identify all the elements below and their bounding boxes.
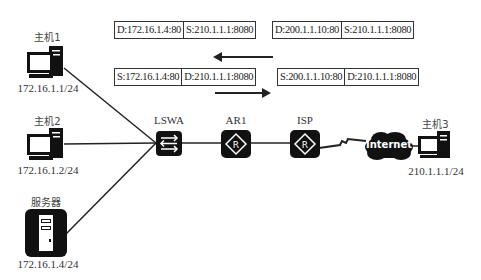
pc-icon[interactable]	[27, 128, 69, 161]
svg-text:R: R	[233, 140, 239, 150]
host3-name: 主机3	[413, 116, 458, 131]
packet-dst: D:210.1.1.1:8080	[181, 69, 255, 85]
packet-src: S:172.16.1.4:80	[115, 69, 181, 85]
router-icon[interactable]: R	[221, 130, 251, 158]
packet-dst: D:210.1.1.1:8080	[344, 69, 418, 85]
packet-dst: D:172.16.1.4:80	[115, 22, 183, 38]
internet-label: Internet	[363, 139, 415, 150]
isp-name: ISP	[285, 114, 325, 126]
server-ip: 172.16.1.4/24	[5, 258, 91, 270]
arrow-left-icon	[213, 52, 273, 62]
packet-return-outside: D:200.1.1.10:80 S:210.1.1.1:8080	[272, 21, 414, 39]
packet-request-inside: S:172.16.1.4:80 D:210.1.1.1:8080	[114, 68, 256, 86]
packet-src: S:200.1.1.10:80	[278, 69, 344, 85]
packet-src: S:210.1.1.1:8080	[341, 22, 413, 38]
host1-name: 主机1	[25, 29, 70, 44]
server-icon[interactable]	[25, 209, 67, 257]
packet-src: S:210.1.1.1:8080	[183, 22, 255, 38]
packet-return-inside: D:172.16.1.4:80 S:210.1.1.1:8080	[114, 21, 256, 39]
internet-cloud[interactable]: Internet	[363, 131, 415, 161]
host2-ip: 172.16.1.2/24	[5, 164, 91, 176]
server-name: 服务器	[22, 194, 70, 209]
host1-ip: 172.16.1.1/24	[5, 82, 91, 94]
switch-name: LSWA	[148, 114, 190, 126]
packet-request-outside: S:200.1.1.10:80 D:210.1.1.1:8080	[277, 68, 419, 86]
ar1-name: AR1	[216, 114, 256, 126]
pc-icon[interactable]	[418, 131, 454, 159]
switch-icon[interactable]	[156, 131, 182, 156]
packet-dst: D:200.1.1.10:80	[273, 22, 341, 38]
host2-name: 主机2	[25, 113, 70, 128]
arrow-right-icon	[215, 88, 271, 98]
pc-icon[interactable]	[27, 46, 69, 79]
host3-ip: 210.1.1.1/24	[398, 165, 474, 177]
router-icon[interactable]: R	[290, 130, 320, 158]
svg-text:R: R	[302, 140, 308, 150]
